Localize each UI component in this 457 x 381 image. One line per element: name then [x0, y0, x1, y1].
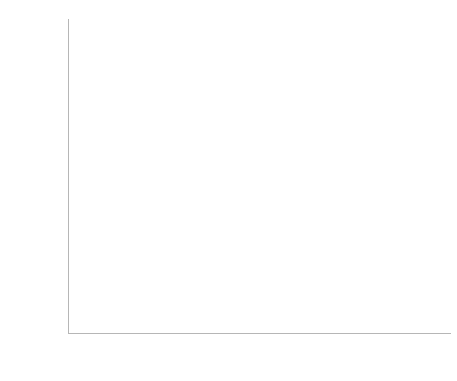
plot-area	[68, 19, 450, 333]
y-axis-labels	[0, 0, 58, 381]
x-axis-line	[68, 333, 451, 334]
data-series-layer	[68, 19, 450, 333]
scatter-chart	[0, 0, 457, 381]
